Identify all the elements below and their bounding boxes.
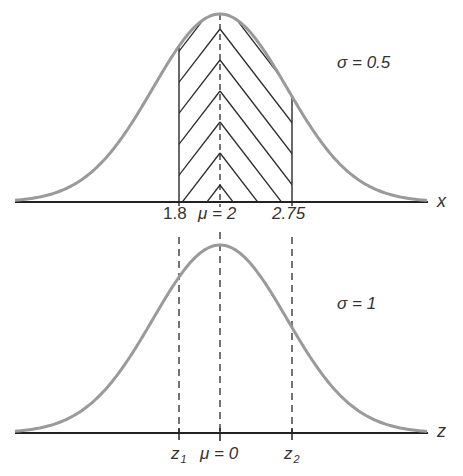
tick-label-z2: z2: [283, 444, 300, 465]
hatch-line: [220, 91, 420, 351]
hatch-line: [20, 122, 220, 382]
hatch-line: [220, 185, 420, 445]
hatch-line: [220, 153, 420, 413]
hatch-line: [220, 122, 420, 382]
tick-label-mean-0: μ = 0: [199, 444, 239, 463]
x-axis-label: x: [436, 191, 447, 211]
top-panel: σ = 0.5 x 1.8 μ = 2 2.75: [15, 0, 447, 445]
tick-label-1.8: 1.8: [163, 204, 187, 223]
tick-label-z1: z1: [170, 444, 187, 465]
hatch-line: [20, 60, 220, 320]
bottom-panel: σ = 1 z z1 μ = 0 z2: [15, 245, 446, 465]
sigma-label-top: σ = 0.5: [337, 53, 391, 72]
normal-distribution-standardization-diagram: σ = 0.5 x 1.8 μ = 2 2.75 σ = 1 z z1 μ = …: [0, 0, 463, 476]
z2-subscript: 2: [293, 453, 300, 465]
z2-base: z: [283, 444, 293, 463]
hatch-line: [20, 153, 220, 413]
sigma-label-bottom: σ = 1: [337, 294, 376, 313]
dashed-connectors: [179, 232, 292, 432]
z1-base: z: [170, 444, 180, 463]
hatch-line: [20, 29, 220, 289]
tick-label-2.75: 2.75: [271, 204, 306, 223]
z-axis-label: z: [436, 421, 446, 441]
hatch-line: [220, 60, 420, 320]
normal-curve-sigma-0.5: [15, 14, 427, 200]
hatch-line: [20, 185, 220, 445]
z1-subscript: 1: [181, 453, 187, 465]
hatch-line: [20, 91, 220, 351]
standard-normal-curve-sigma-1: [15, 245, 427, 431]
tick-label-mean-2: μ = 2: [197, 204, 237, 223]
